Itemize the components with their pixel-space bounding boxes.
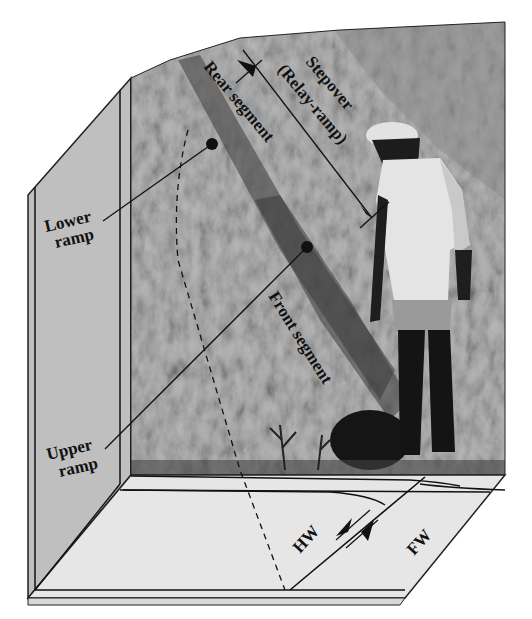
outcrop-photo [131,20,511,480]
relay-ramp-block-diagram: Lower ramp Upper ramp Rear segment Stepo… [0,0,532,619]
